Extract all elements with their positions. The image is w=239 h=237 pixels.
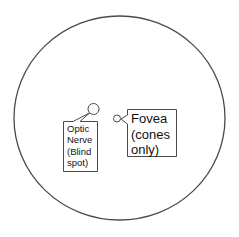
fovea-marker	[114, 115, 121, 122]
retina-diagram	[0, 0, 239, 237]
fovea-label: Fovea (cones only)	[131, 111, 170, 158]
optic-nerve-label: Optic Nerve (Blind spot)	[67, 123, 92, 169]
optic-nerve-marker	[88, 104, 99, 115]
